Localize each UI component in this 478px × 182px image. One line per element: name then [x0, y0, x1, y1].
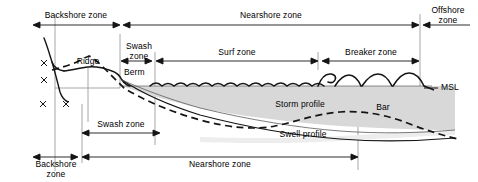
label-msl: MSL [441, 83, 459, 93]
dune-mark-3 [40, 101, 46, 107]
diagram-canvas [0, 0, 478, 182]
bar-backshore-top [33, 22, 120, 28]
label-backshore-zone-top: Backshore zone [45, 11, 107, 21]
wave-ripples [150, 83, 324, 86]
bar-nearshore-top [123, 22, 419, 28]
label-swash-zone-lower: Swash zone [97, 120, 144, 130]
beach-profile-diagram: Backshore zone Nearshore zone Offshore z… [0, 0, 478, 182]
label-nearshore-zone-top: Nearshore zone [240, 11, 302, 21]
breaking-wave-2 [335, 75, 361, 86]
dune-face-lower [52, 62, 68, 102]
breaking-wave-4 [393, 73, 424, 86]
bar-surf-mid [156, 58, 318, 64]
dune-mark-1 [41, 60, 47, 66]
label-berm: Berm [124, 68, 145, 78]
label-ridge: Ridge [77, 57, 100, 67]
label-storm-profile: Storm profile [275, 100, 324, 110]
dune-face-upper [44, 38, 64, 71]
label-swash-zone-mid: Swash zone [126, 42, 152, 61]
bar-breaker-mid [322, 58, 419, 64]
label-bar: Bar [376, 103, 390, 113]
label-backshore-zone-bottom: Backshore zone [35, 160, 76, 179]
label-nearshore-zone-bottom: Nearshore zone [189, 160, 251, 170]
bar-swash-lower [82, 130, 160, 136]
label-offshore-zone-top: Offshore zone [431, 6, 464, 25]
dune-mark-4 [63, 101, 69, 107]
label-surf-zone: Surf zone [218, 48, 255, 58]
dune-mark-2 [41, 77, 47, 83]
breaking-wave-3 [362, 74, 392, 86]
label-breaker-zone: Breaker zone [345, 48, 397, 58]
label-swell-profile: Swell profile [279, 130, 326, 140]
